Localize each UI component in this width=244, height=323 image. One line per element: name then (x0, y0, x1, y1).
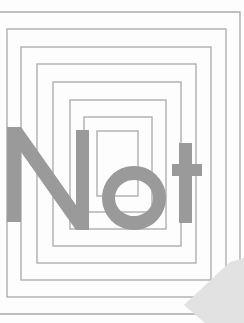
page-curl (0, 0, 244, 323)
book-cover: Not (0, 0, 244, 323)
